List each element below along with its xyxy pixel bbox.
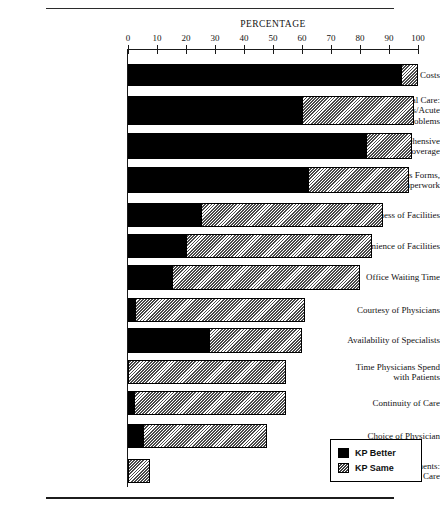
bar-segment-kp-better[interactable] [128,424,143,448]
bar-segment-kp-same[interactable] [366,133,412,159]
stacked-bar [128,459,150,483]
chart-legend: KP Better KP Same [330,439,422,482]
stacked-bar [128,298,305,322]
chart-row[interactable]: Costs [0,64,440,86]
row-label-line: Availability of Specialists [320,335,440,346]
stacked-bar [128,96,414,125]
x-tick-60 [302,45,303,54]
x-tick-70 [331,45,332,54]
chart-row[interactable]: Office Waiting Time [0,265,440,290]
bar-segment-kp-same[interactable] [143,424,268,448]
x-tick-0 [128,45,129,54]
x-tick-80 [360,45,361,54]
stacked-bar [128,360,286,384]
bar-segment-kp-better[interactable] [128,298,135,322]
chart-page: PERCENTAGE 0102030405060708090100 CostsA… [0,0,440,511]
row-label: Time Physicians Spendwith Patients [320,362,440,383]
stacked-bar [128,167,409,193]
bar-segment-kp-same[interactable] [302,96,414,125]
x-tick-40 [244,45,245,54]
bar-segment-kp-better[interactable] [128,96,302,125]
stacked-bar [128,328,302,353]
chart-row[interactable]: ComprehensiveBenefits/Coverage [0,133,440,159]
bar-segment-kp-better[interactable] [128,328,209,353]
chart-row[interactable]: Availability of Medical Care:Emergencies… [0,96,440,125]
bar-segment-kp-same[interactable] [186,234,372,258]
stacked-bar [128,133,412,159]
x-tick-90 [389,45,390,54]
bar-segment-kp-same[interactable] [134,391,286,415]
bar-segment-kp-same[interactable] [128,360,286,384]
stacked-bar [128,424,267,448]
stacked-bar [128,234,372,258]
x-tick-20 [186,45,187,54]
chart-row[interactable]: Courtesy of Physicians [0,298,440,322]
stacked-bar [128,265,360,290]
bar-segment-kp-same[interactable] [308,167,410,193]
bar-segment-kp-same[interactable] [209,328,302,353]
bar-segment-kp-same[interactable] [401,64,418,86]
chart-row[interactable]: Availability of Specialists [0,328,440,353]
row-label: Availability of Specialists [320,335,440,346]
row-label-line: Continuity of Care [320,398,440,409]
chart-row[interactable]: Time Physicians Spendwith Patients [0,360,440,384]
bar-segment-kp-better[interactable] [128,203,201,227]
x-tick-100 [418,45,419,54]
bar-segment-kp-better[interactable] [128,64,401,86]
bar-segment-kp-better[interactable] [128,167,308,193]
legend-swatch-kp-better [338,448,349,458]
legend-item-kp-same: KP Same [338,460,421,475]
row-label: Courtesy of Physicians [320,305,440,316]
bar-segment-kp-better[interactable] [128,234,186,258]
legend-swatch-kp-same [338,463,349,473]
bar-segment-kp-same[interactable] [135,298,305,322]
legend-item-kp-better: KP Better [338,445,421,460]
bar-segment-kp-same[interactable] [201,203,384,227]
chart-row[interactable]: Continuity of Care [0,391,440,415]
x-tick-30 [215,45,216,54]
bar-segment-kp-same[interactable] [172,265,361,290]
x-tick-10 [157,45,158,54]
bar-segment-kp-better[interactable] [128,265,172,290]
plot-area: CostsAvailability of Medical Care:Emerge… [0,0,440,511]
legend-label-kp-same: KP Same [355,463,394,473]
row-label-line: with Patients [320,372,440,383]
x-tick-50 [273,45,274,54]
row-label: Continuity of Care [320,398,440,409]
row-label-line: Time Physicians Spend [320,362,440,373]
stacked-bar [128,64,418,86]
stacked-bar [128,203,383,227]
stacked-bar [128,391,286,415]
legend-label-kp-better: KP Better [355,448,396,458]
row-label-line: Courtesy of Physicians [320,305,440,316]
chart-row[interactable]: Attractiveness of Facilities [0,203,440,227]
bar-segment-kp-same[interactable] [128,459,150,483]
bar-segment-kp-better[interactable] [128,133,366,159]
chart-row[interactable]: Convenience of Facilities [0,234,440,258]
chart-row[interactable]: No Claims Forms,Paperwork [0,167,440,193]
